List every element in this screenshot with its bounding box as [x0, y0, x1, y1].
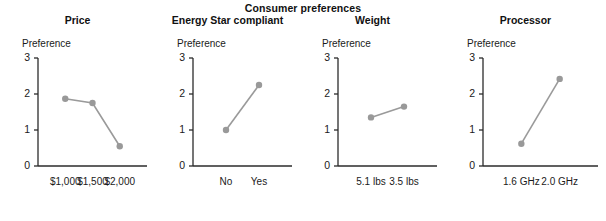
x-tick-label: 3.5 lbs	[389, 176, 418, 187]
data-point-marker	[401, 103, 407, 109]
x-tick-label: $1,500	[77, 176, 108, 187]
data-point-marker	[368, 114, 374, 120]
data-point-marker	[518, 140, 524, 146]
data-point-marker	[223, 127, 229, 133]
series-line	[371, 107, 404, 118]
data-point-marker	[556, 76, 562, 82]
x-tick-label: $2,000	[104, 176, 135, 187]
data-point-marker	[117, 143, 123, 149]
series-line	[521, 79, 559, 144]
x-tick-label: Yes	[251, 176, 267, 187]
figure-title: Consumer preferences	[0, 2, 606, 14]
x-tick-label: No	[220, 176, 233, 187]
data-point-marker	[62, 95, 68, 101]
x-tick-label: 2.0 GHz	[541, 176, 578, 187]
consumer-preferences-figure: Consumer preferences Price Preference 01…	[0, 0, 606, 221]
panel-processor: Processor Preference 01231.6 GHz2.0 GHz	[445, 14, 606, 221]
data-point-marker	[256, 82, 262, 88]
x-tick-label: $1,000	[50, 176, 81, 187]
panel-weight: Weight Preference 01235.1 lbs3.5 lbs	[300, 14, 445, 221]
series-line	[226, 85, 259, 130]
x-tick-label: 5.1 lbs	[356, 176, 385, 187]
panel-price: Price Preference 0123$1,000$1,500$2,000	[0, 14, 155, 221]
panel-energy-star: Energy Star compliant Preference 0123NoY…	[155, 14, 300, 221]
data-point-marker	[89, 100, 95, 106]
x-tick-label: 1.6 GHz	[503, 176, 540, 187]
